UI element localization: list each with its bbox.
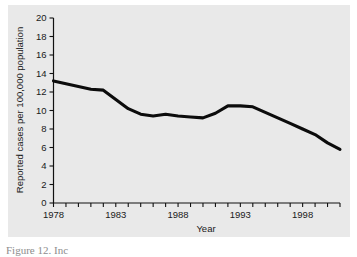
x-tick-label: 1993 bbox=[230, 209, 251, 220]
figure-root: 0246810121416182019781983198819931998 Ye… bbox=[0, 0, 357, 257]
y-tick-label: 10 bbox=[36, 105, 47, 116]
y-tick-label: 20 bbox=[36, 12, 47, 23]
y-tick-label: 2 bbox=[41, 179, 46, 190]
line-chart: 0246810121416182019781983198819931998 Ye… bbox=[8, 5, 350, 237]
x-axis-title: Year bbox=[196, 223, 215, 234]
y-tick-label: 8 bbox=[41, 123, 46, 134]
y-tick-label: 12 bbox=[36, 86, 47, 97]
y-axis-title: Reported cases per 100,000 population bbox=[14, 27, 25, 193]
x-tick-label: 1983 bbox=[105, 209, 126, 220]
chart-axes bbox=[50, 18, 341, 207]
x-tick-label: 1988 bbox=[167, 209, 188, 220]
figure-caption: Figure 12. Inc bbox=[6, 243, 350, 257]
y-tick-label: 0 bbox=[41, 197, 46, 208]
chart-panel: 0246810121416182019781983198819931998 Ye… bbox=[8, 5, 350, 237]
y-tick-label: 16 bbox=[36, 49, 47, 60]
data-line-reported-cases bbox=[54, 81, 341, 149]
y-tick-label: 18 bbox=[36, 31, 47, 42]
chart-series-group bbox=[54, 81, 341, 149]
y-tick-label: 14 bbox=[36, 68, 47, 79]
x-tick-label: 1998 bbox=[292, 209, 313, 220]
y-tick-label: 6 bbox=[41, 142, 46, 153]
x-tick-label: 1978 bbox=[43, 209, 64, 220]
y-tick-label: 4 bbox=[41, 160, 46, 171]
